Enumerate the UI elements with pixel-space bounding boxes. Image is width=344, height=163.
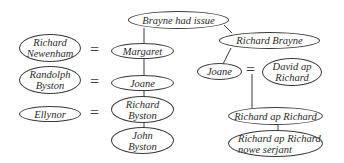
line-brayne-richard-brayne xyxy=(224,25,232,33)
node-margaret: Margaret xyxy=(111,43,174,59)
node-richard-ap-richard: Richard ap Richard xyxy=(228,107,323,125)
node-john-byston: John Byston xyxy=(111,127,174,154)
line-richard-brayne-joane xyxy=(223,48,231,64)
node-richard-newenham: Richard Newenham xyxy=(19,34,81,62)
node-brayne-had-issue: Brayne had issue xyxy=(128,11,229,29)
node-randolph-byston: Randolph Byston xyxy=(19,66,81,94)
node-david-ap-richard: David ap Richard xyxy=(262,58,322,86)
marriage-symbol: = xyxy=(90,74,99,90)
marriage-symbol: = xyxy=(90,42,99,58)
node-joane-left: Joane xyxy=(111,75,174,91)
marriage-symbol: = xyxy=(246,62,255,78)
node-ellynor: Ellynor xyxy=(19,106,81,122)
node-richard-brayne: Richard Brayne xyxy=(219,32,320,49)
node-richard-byston: Richard Byston xyxy=(111,96,174,123)
node-joane-right: Joane xyxy=(197,63,242,80)
family-tree-diagram: Brayne had issue Richard Brayne Richard … xyxy=(0,0,344,163)
marriage-symbol: = xyxy=(90,105,99,121)
node-richard-ap-richard-serjant: Richard ap Richard nowe serjant xyxy=(228,130,323,157)
